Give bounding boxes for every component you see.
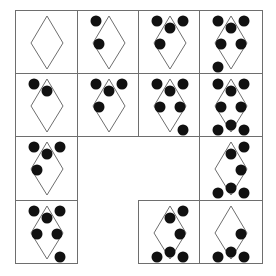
dot-ml-icon <box>155 102 166 113</box>
dot-tl-icon <box>91 79 102 90</box>
dot-tc-icon <box>165 23 176 34</box>
dot-tc-icon <box>42 86 53 97</box>
puzzle-cell-r3-c3 <box>199 200 263 264</box>
cell-figure <box>139 11 201 75</box>
dot-tr-icon <box>55 206 66 217</box>
puzzle-cell-r1-c1 <box>77 73 139 137</box>
dot-mr-icon <box>236 39 247 50</box>
dot-tc-icon <box>165 213 176 224</box>
dot-br-icon <box>239 252 250 263</box>
dot-ml-icon <box>155 39 166 50</box>
cell-figure <box>200 11 264 75</box>
dot-br-icon <box>178 252 189 263</box>
cell-figure <box>16 11 79 75</box>
dot-br-icon <box>239 188 250 199</box>
dot-tc-icon <box>226 86 237 97</box>
dot-mr-icon <box>52 229 63 240</box>
dot-tl-icon <box>29 79 40 90</box>
dot-tr-icon <box>239 79 250 90</box>
dot-tr-icon <box>178 16 189 27</box>
dot-ml-icon <box>216 39 227 50</box>
dot-mr-icon <box>236 229 247 240</box>
puzzle-cell-r3-c0 <box>15 200 78 264</box>
dot-bl-icon <box>213 188 224 199</box>
puzzle-cell-r1-c3 <box>199 73 263 137</box>
puzzle-cell-r3-c2 <box>138 200 200 264</box>
dot-mr-icon <box>175 102 186 113</box>
puzzle-cell-r0-c0 <box>15 10 78 74</box>
dot-ml-icon <box>32 165 43 176</box>
dot-mr-icon <box>175 229 186 240</box>
dot-tl-icon <box>213 16 224 27</box>
cell-figure <box>200 201 264 265</box>
dot-tc-icon <box>104 86 115 97</box>
dot-tr-icon <box>178 206 189 217</box>
dot-br-icon <box>55 252 66 263</box>
dot-tl-icon <box>152 79 163 90</box>
cell-figure <box>16 137 79 202</box>
dot-tl-icon <box>29 206 40 217</box>
puzzle-cell-r1-c2 <box>138 73 200 137</box>
cell-figure <box>139 201 201 265</box>
puzzle-cell-r0-c3 <box>199 10 263 74</box>
dot-tc-icon <box>42 149 53 160</box>
dot-ml-icon <box>32 229 43 240</box>
puzzle-cell-r2-c3 <box>199 136 263 201</box>
dot-ml-icon <box>94 39 105 50</box>
dot-ml-icon <box>216 102 227 113</box>
dot-bc-icon <box>226 247 237 258</box>
dot-tc-icon <box>226 23 237 34</box>
diamond-shape-icon <box>31 16 63 69</box>
dot-tl-icon <box>213 79 224 90</box>
dot-tl-icon <box>152 16 163 27</box>
cell-figure <box>200 137 264 202</box>
dot-tr-icon <box>55 142 66 153</box>
dot-bc-icon <box>226 120 237 131</box>
dot-mr-icon <box>236 165 247 176</box>
dot-tr-icon <box>239 142 250 153</box>
cell-figure <box>78 74 140 138</box>
dot-br-icon <box>239 125 250 136</box>
dot-tl-icon <box>29 142 40 153</box>
dot-bc-icon <box>226 183 237 194</box>
dot-mr-icon <box>236 102 247 113</box>
cell-figure <box>139 74 201 138</box>
puzzle-cell-r2-c0 <box>15 136 78 201</box>
dot-br-icon <box>178 125 189 136</box>
dot-bl-icon <box>152 252 163 263</box>
dot-tr-icon <box>239 16 250 27</box>
dot-tc-icon <box>226 149 237 160</box>
cell-figure <box>16 74 79 138</box>
dot-bc-icon <box>165 247 176 258</box>
puzzle-cell-r0-c2 <box>138 10 200 74</box>
puzzle-cell-r1-c0 <box>15 73 78 137</box>
dot-bl-icon <box>213 125 224 136</box>
cell-figure <box>16 201 79 265</box>
dot-tr-icon <box>178 79 189 90</box>
dot-tl-icon <box>91 16 102 27</box>
dot-tr-icon <box>117 79 128 90</box>
cell-figure <box>200 74 264 138</box>
dot-ml-icon <box>94 102 105 113</box>
cell-figure <box>78 11 140 75</box>
dot-diamond-puzzle-grid <box>0 0 276 276</box>
dot-bl-icon <box>213 252 224 263</box>
puzzle-cell-r0-c1 <box>77 10 139 74</box>
dot-tc-icon <box>165 86 176 97</box>
dot-bl-icon <box>213 62 224 73</box>
dot-tc-icon <box>42 213 53 224</box>
